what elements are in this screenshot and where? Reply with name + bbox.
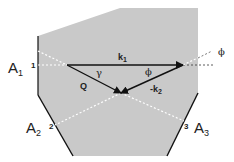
k1-label: k1 [118, 53, 127, 63]
analyzer-a1-label: A1 [8, 60, 23, 78]
analyzer-a2-label: A2 [26, 120, 41, 138]
q-label: Q [80, 82, 87, 91]
analyzer-a3-label: A3 [194, 120, 209, 138]
neg-k2-label: -k2 [150, 85, 162, 95]
sample-region [38, 8, 198, 156]
port-2-label: 2 [49, 123, 53, 131]
gamma-angle-label: γ [96, 68, 102, 78]
phi-outer-angle-label: ϕ [218, 47, 225, 57]
phi-inner-angle-label: ϕ [145, 67, 152, 77]
port-3-label: 3 [184, 123, 188, 131]
port-1-label: 1 [31, 62, 35, 70]
